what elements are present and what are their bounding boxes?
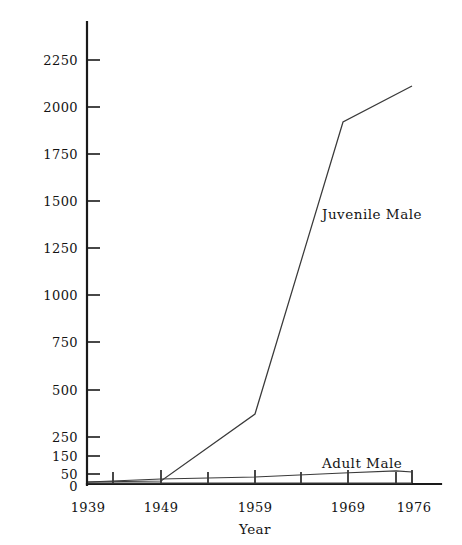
x-axis-title: Year bbox=[238, 521, 271, 537]
y-tick-label-1000: 1000 bbox=[43, 288, 78, 303]
x-tick-label-1939: 1939 bbox=[71, 500, 106, 515]
series-line-juvenile-male bbox=[88, 86, 412, 482]
y-tick-label-150: 150 bbox=[52, 449, 78, 464]
series-label-adult-male: Adult Male bbox=[321, 455, 402, 471]
x-tick-label-1976: 1976 bbox=[397, 500, 432, 515]
y-tick-label-2000: 2000 bbox=[43, 100, 78, 115]
y-tick-label-750: 750 bbox=[52, 335, 78, 350]
chart-page: 2250 2000 1750 1500 1250 1000 750 500 25… bbox=[0, 0, 462, 545]
x-tick-label-1949: 1949 bbox=[144, 500, 179, 515]
y-tick-label-1750: 1750 bbox=[43, 147, 78, 162]
x-tick-label-1969: 1969 bbox=[331, 500, 366, 515]
y-tick-label-0: 0 bbox=[69, 479, 78, 494]
y-tick-label-250: 250 bbox=[52, 430, 78, 445]
y-tick-label-1500: 1500 bbox=[43, 194, 78, 209]
y-tick-label-500: 500 bbox=[52, 383, 78, 398]
x-tick-label-1959: 1959 bbox=[238, 500, 273, 515]
y-tick-label-1250: 1250 bbox=[43, 241, 78, 256]
line-chart-plot: 2250 2000 1750 1500 1250 1000 750 500 25… bbox=[0, 0, 462, 545]
y-tick-label-2250: 2250 bbox=[43, 53, 78, 68]
series-label-juvenile-male: Juvenile Male bbox=[320, 206, 422, 222]
